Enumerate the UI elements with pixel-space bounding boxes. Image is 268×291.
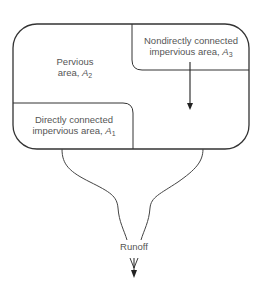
pervious-subscript: 2 bbox=[88, 72, 92, 79]
direct-prefix: impervious area, bbox=[32, 125, 105, 136]
direct-subscript: 1 bbox=[112, 130, 116, 137]
nondirect-subscript: 3 bbox=[229, 51, 233, 58]
pervious-line2: area, A2 bbox=[45, 67, 105, 81]
flow-arrow-head bbox=[187, 103, 193, 110]
pervious-prefix: area, bbox=[58, 67, 82, 78]
pervious-line1: Pervious bbox=[45, 56, 105, 67]
runoff-arrow-head bbox=[131, 270, 137, 278]
direct-line2: impervious area, A1 bbox=[18, 125, 130, 139]
label-direct-impervious-area: Directly connected impervious area, A1 bbox=[18, 114, 130, 139]
nondirect-prefix: impervious area, bbox=[149, 46, 222, 57]
nondirect-line2: impervious area, A3 bbox=[134, 46, 248, 60]
nondirect-line1: Nondirectly connected bbox=[134, 35, 248, 46]
label-pervious-area: Pervious area, A2 bbox=[45, 56, 105, 81]
direct-line1: Directly connected bbox=[18, 114, 130, 125]
funnel-right bbox=[141, 149, 203, 240]
label-nondirect-impervious-area: Nondirectly connected impervious area, A… bbox=[134, 35, 248, 60]
funnel-left bbox=[62, 149, 127, 240]
label-runoff: Runoff bbox=[114, 241, 154, 252]
